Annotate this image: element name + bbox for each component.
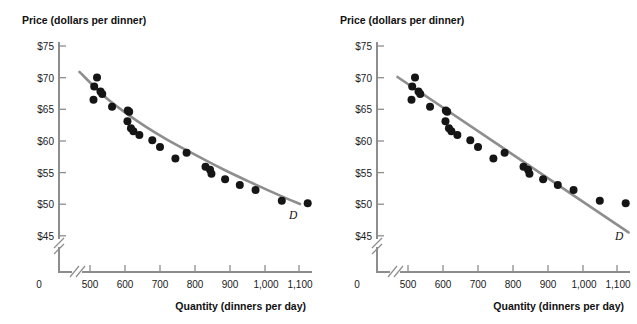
y-tick-label-65: $65 (355, 104, 372, 115)
y-tick-label-60: $60 (37, 136, 54, 147)
y-tick-label-45: $45 (37, 231, 54, 242)
data-point (207, 170, 215, 178)
data-point (622, 199, 630, 207)
data-point (148, 136, 156, 144)
x-tick-label-0: 0 (354, 279, 360, 290)
y-tick-label-60: $60 (355, 136, 372, 147)
y-tick-label-70: $70 (355, 73, 372, 84)
data-point (304, 199, 312, 207)
y-tick-label-55: $55 (355, 168, 372, 179)
data-point (570, 186, 578, 194)
chart-panel-right: Price (dollars per dinner) $75 $70 $65 $… (318, 0, 636, 324)
data-point (252, 186, 260, 194)
y-axis-group: $75 $70 $65 $60 $55 $50 $45 (355, 41, 384, 272)
data-point (525, 170, 533, 178)
y-tick-label-65: $65 (37, 104, 54, 115)
data-point (123, 117, 131, 125)
demand-curve-label: D (614, 230, 624, 242)
data-point (426, 103, 434, 111)
x-tick-label-900: 900 (222, 279, 239, 290)
data-point (466, 136, 474, 144)
x-tick-label-700: 700 (152, 279, 169, 290)
y-axis-break-mark-1 (372, 238, 382, 248)
data-point (108, 103, 116, 111)
data-point (408, 96, 416, 104)
data-point (408, 82, 416, 90)
x-tick-label-1100: 1,100 (605, 279, 630, 290)
scatter-points-group (90, 74, 312, 208)
x-tick-label-600: 600 (117, 279, 134, 290)
demand-curve-line (398, 77, 629, 232)
data-point (539, 175, 547, 183)
data-point (135, 131, 143, 139)
data-point (501, 149, 509, 157)
scatter-points-group (408, 74, 630, 208)
x-tick-label-800: 800 (505, 279, 522, 290)
chart-panel-left: Price (dollars per dinner) $75 $70 $65 $… (0, 0, 318, 324)
x-tick-label-1000: 1,000 (571, 279, 596, 290)
y-tick-label-75: $75 (355, 41, 372, 52)
data-point (93, 74, 101, 82)
data-point (156, 143, 164, 151)
data-point (453, 131, 461, 139)
data-point (596, 197, 604, 205)
data-point (90, 96, 98, 104)
figure-container: Price (dollars per dinner) $75 $70 $65 $… (0, 0, 637, 324)
data-point (554, 181, 562, 189)
y-tick-label-45: $45 (355, 231, 372, 242)
data-point (416, 90, 424, 98)
data-point (236, 181, 244, 189)
data-point (221, 175, 229, 183)
demand-curve-label: D (288, 209, 298, 221)
data-point (90, 82, 98, 90)
x-axis-label: Quantity (dinners per day) (493, 300, 624, 312)
x-tick-label-1100: 1,100 (287, 279, 312, 290)
x-tick-label-900: 900 (540, 279, 557, 290)
data-point (125, 108, 133, 116)
x-tick-label-800: 800 (187, 279, 204, 290)
y-tick-label-50: $50 (37, 199, 54, 210)
x-tick-label-500: 500 (82, 279, 99, 290)
y-axis-break-mark-1 (54, 238, 64, 248)
chart-svg-left: Price (dollars per dinner) $75 $70 $65 $… (0, 0, 318, 324)
y-tick-label-55: $55 (37, 168, 54, 179)
y-axis-group: $75 $70 $65 $60 $55 $50 $45 (37, 41, 66, 272)
x-axis-group: 0 500 600 700 800 900 1,000 1,100 (36, 265, 313, 290)
y-tick-label-75: $75 (37, 41, 54, 52)
y-axis-label: Price (dollars per dinner) (22, 14, 146, 26)
data-point (489, 155, 497, 163)
y-axis-lower-stub (59, 247, 62, 272)
demand-curve-line (80, 72, 301, 204)
x-tick-label-700: 700 (470, 279, 487, 290)
x-tick-label-0: 0 (36, 279, 42, 290)
data-point (443, 108, 451, 116)
y-tick-label-70: $70 (37, 73, 54, 84)
chart-svg-right: Price (dollars per dinner) $75 $70 $65 $… (318, 0, 636, 324)
data-point (474, 143, 482, 151)
data-point (441, 117, 449, 125)
data-point (98, 90, 106, 98)
y-axis-lower-stub (377, 247, 380, 272)
x-axis-group: 0 500 600 700 800 900 1,000 1,100 (354, 265, 631, 290)
y-tick-label-50: $50 (355, 199, 372, 210)
data-point (411, 74, 419, 82)
x-tick-label-1000: 1,000 (253, 279, 278, 290)
y-axis-label: Price (dollars per dinner) (340, 14, 464, 26)
data-point (278, 197, 286, 205)
data-point (183, 149, 191, 157)
x-axis-label: Quantity (dinners per day) (175, 300, 306, 312)
x-tick-label-600: 600 (435, 279, 452, 290)
x-tick-label-500: 500 (400, 279, 417, 290)
data-point (171, 155, 179, 163)
